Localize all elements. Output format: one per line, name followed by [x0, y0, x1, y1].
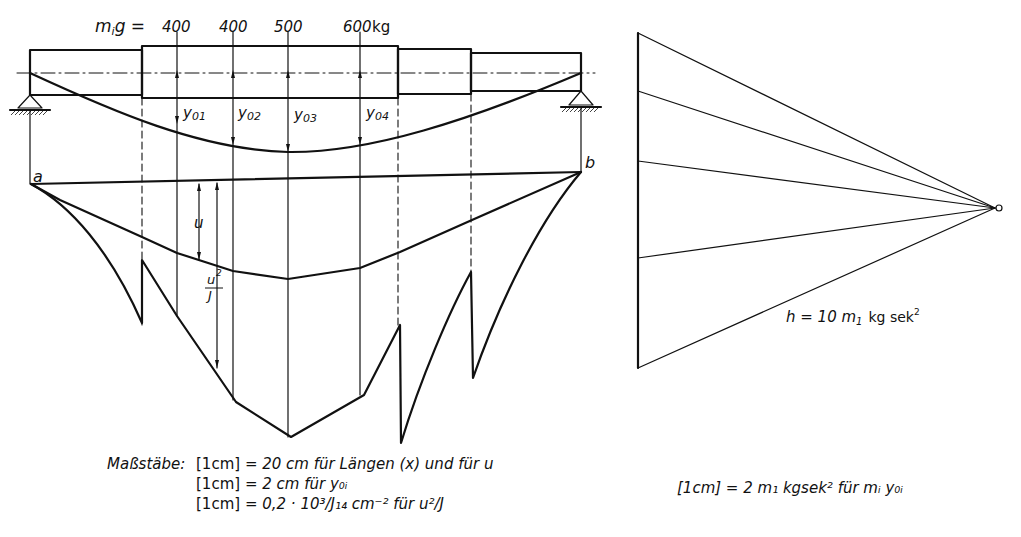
svg-text:J: J: [205, 288, 212, 303]
scales-title: Maßstäbe:: [107, 455, 185, 473]
load-unit: kg: [372, 18, 390, 36]
load-2: 400: [219, 18, 248, 36]
u-label: u: [194, 214, 204, 232]
ray-2: [638, 91, 995, 208]
shaft-section-right-2: [471, 53, 581, 91]
y04-label: y04: [365, 104, 389, 123]
load-4: 600: [343, 18, 372, 36]
scale-line-1: [1cm] = 20 cm für Längen (x) und für u: [196, 455, 493, 473]
load-lines: [175, 32, 362, 437]
load-prefix: mig =: [95, 16, 145, 38]
svg-text:u: u: [207, 272, 215, 287]
y02-label: y02: [237, 104, 261, 123]
point-b-label: b: [585, 153, 595, 172]
ray-3: [638, 161, 995, 208]
y03-label: y03: [293, 106, 317, 125]
load-3: 500: [274, 18, 303, 36]
ray-4: [638, 208, 995, 258]
point-a-label: a: [33, 167, 43, 186]
baseline-ab: [31, 172, 581, 184]
u2J-label: u 2 J: [205, 268, 223, 303]
shaft: [17, 46, 595, 98]
svg-text:2: 2: [216, 268, 222, 278]
ray-1: [638, 33, 995, 208]
load-1: 400: [162, 18, 191, 36]
ray-5: [638, 208, 995, 368]
scale-line-2: [1cm] = 2 cm für y₀ᵢ: [196, 475, 347, 493]
y01-label: y01: [182, 104, 206, 123]
scale-line-3: [1cm] = 0,2 · 10³/J₁₄ cm⁻² für u²/J: [196, 495, 444, 513]
polygon-scale: [1cm] = 2 m₁ kgsek² für mᵢ y₀ᵢ: [677, 479, 903, 497]
pole-distance-label: h = 10 m1kg sek2: [786, 307, 920, 327]
pole-point: [996, 205, 1002, 211]
u2J-curve: [31, 172, 581, 443]
shaft-section-right-1: [398, 49, 471, 94]
u-polyline: [31, 172, 581, 279]
